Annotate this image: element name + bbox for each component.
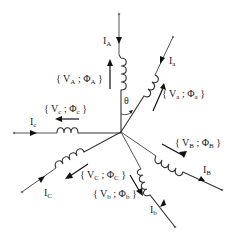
branch-C [21,132,121,193]
coil-C-icon [55,132,121,168]
coil-b-icon [137,169,175,227]
current-label-c: Ic [30,116,36,129]
voltage-flux-label-b: { Vb ; Φb } [93,188,137,201]
voltage-flux-label-C: { VC ; ΦC } [80,169,126,182]
coil-c-icon [57,128,121,133]
current-label-A: IA [103,35,111,48]
star-winding-diagram: IA { VA ; ΦA } Ia { Va ; Φa } θ Ic { Vc … [0,0,230,239]
coil-A-icon [119,55,126,132]
current-arrow-A-icon [116,37,122,44]
voltage-flux-label-a: { Va ; Φa } [162,88,205,101]
current-arrow-B-icon [198,176,205,181]
branch-b [121,132,176,228]
current-label-a: Ia [169,55,176,68]
coil-B-icon [155,156,222,190]
current-arrow-c-icon [30,130,37,136]
branch-c [13,116,121,136]
branch-a [121,36,174,132]
current-arrow-C-icon [38,176,45,183]
current-arrow-a-icon [160,56,165,64]
current-label-b: Ib [150,204,157,217]
current-label-B: IB [203,164,211,177]
voltage-flux-label-B: { VB ; ΦB } [175,137,221,150]
voltage-flux-label-A: { VA ; ΦA } [56,73,103,86]
current-label-C: IC [44,187,52,200]
angle-label-theta: θ [124,95,129,106]
current-arrow-b-icon [160,199,166,207]
neutral-point [120,131,122,133]
voltage-flux-label-c: { Vc ; Φc } [44,103,87,116]
